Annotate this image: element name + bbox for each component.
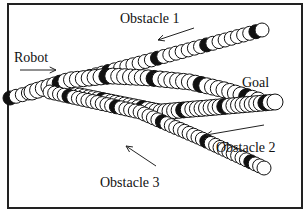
obstacle2-label: Obstacle 2 [216,140,275,155]
obstacle1-label: Obstacle 1 [120,11,179,26]
obstacle2-direction-arrow [206,125,264,137]
trajectory-sample [255,23,269,37]
trajectory-sample [267,94,283,110]
robot-direction-arrow [20,67,56,73]
trajectory-sample [257,161,271,175]
obstacle3-label: Obstacle 3 [100,175,159,190]
arrowhead-icon [126,146,133,152]
obstacle1-direction-arrow [158,28,194,41]
robot-obstacle-trajectory-diagram: Robot Goal Obstacle 1 Obstacle 2 Obstacl… [0,0,308,215]
goal-label: Goal [242,75,269,90]
robot-label: Robot [14,50,48,65]
obstacle3-direction-arrow [126,146,156,166]
